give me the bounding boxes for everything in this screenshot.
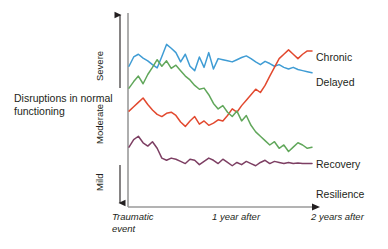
trajectory-chart: Disruptions in normal functioning Severe… — [0, 0, 388, 249]
series-paths-group — [129, 44, 312, 165]
series-line-recovery — [129, 60, 312, 152]
series-line-chronic — [129, 44, 312, 72]
series-line-resilience — [129, 136, 312, 166]
chart-canvas — [0, 0, 388, 249]
axis-group — [120, 13, 318, 207]
